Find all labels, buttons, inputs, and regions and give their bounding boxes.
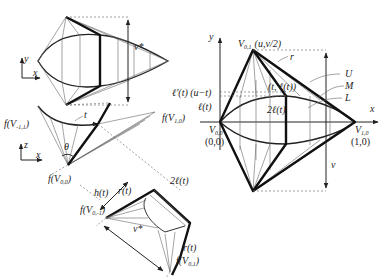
leaf-outline [38, 34, 168, 87]
fold-edge [68, 103, 110, 165]
v-label: v [331, 159, 336, 170]
leader-M [318, 86, 344, 98]
t-label: t [84, 109, 87, 120]
x-axis-label: x [32, 67, 38, 78]
inner-fold [144, 198, 185, 232]
two-l-t-label-right: 2ℓ(t) [267, 104, 286, 116]
f-v-minus1-1-label: f(V-1,1) [4, 118, 30, 130]
r-label: r [290, 51, 294, 62]
y-axis-label-right: y [208, 31, 214, 42]
l-t-label: ℓ(t) [198, 101, 212, 113]
L-label: L [344, 92, 351, 103]
curve-t [38, 106, 98, 125]
y-axis-label: y [23, 53, 29, 64]
leader-U [310, 74, 340, 82]
r-t-top-label: r(t) [118, 185, 132, 197]
M-label: M [344, 80, 354, 91]
fan-lines-bottom [38, 106, 155, 165]
lprime-label: ℓ'(t) (u−t) [172, 87, 212, 99]
v00-coord-label: (0,0) [205, 136, 224, 148]
x-axis-label-right: x [369, 103, 375, 114]
f-v-1-0-label: f(V1,0) [162, 112, 186, 124]
h-t-label: h(t) [94, 187, 109, 199]
fold-line [66, 17, 100, 105]
v-star-label-2: v* [133, 223, 142, 234]
r-t-side-label: r(t) [183, 242, 197, 254]
f-v-0-minus1-label: f(V0,-1) [80, 204, 106, 216]
v01-label: V0,1(u,v/2) [238, 38, 282, 50]
U-label: U [345, 68, 353, 79]
f-v-0-0-label: f(V0,0) [48, 173, 72, 185]
top-left-panel: v* y x [22, 17, 168, 105]
v10-coord-label: (1,0) [351, 136, 370, 148]
x-axis-label-2: x [35, 149, 41, 160]
right-panel: y x [172, 31, 378, 191]
theta-label: θ [64, 141, 69, 152]
point-t-label: (t, ℓ(t)) [268, 81, 297, 93]
two-l-t-label: 2ℓ(t) [170, 175, 189, 187]
fan-lines-top [38, 17, 168, 105]
z-axis-label: z [23, 139, 28, 150]
bottom-left-panel: h(t) v* r(t) 2ℓ(t) r(t) f(V0,-1) f(V0,1) [80, 175, 200, 277]
diagram-canvas: v* y x θ t f [0, 0, 389, 277]
v10-label: V1,0 [355, 124, 369, 136]
v-star-label: v* [134, 41, 143, 52]
f-v-0-1-label: f(V0,1) [176, 255, 200, 267]
middle-left-panel: θ t f(V-1,1) f(V1,0) f(V0,0) z x [4, 103, 186, 200]
leader-r [278, 56, 288, 62]
